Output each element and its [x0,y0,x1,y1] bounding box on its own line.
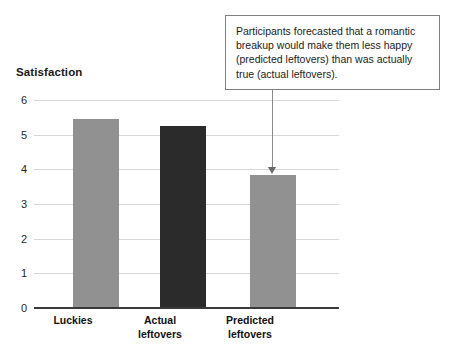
category-label-line: Actual [114,314,206,328]
annotation-arrow-icon [268,167,276,174]
category-label-line: leftovers [114,328,206,342]
category-label-actual-leftovers: Actual leftovers [114,314,206,341]
annotation-callout: Participants forecasted that a romantic … [225,15,440,90]
category-label-predicted-leftovers: Predicted leftovers [204,314,296,341]
x-axis-line [34,307,339,309]
bar-predicted-leftovers [250,175,296,308]
category-label-line: Predicted [204,314,296,328]
bar-actual-leftovers [160,126,206,308]
y-axis-title: Satisfaction [16,66,82,78]
y-tick-label-0: 0 [21,302,27,314]
y-tick-label-3: 3 [21,198,27,210]
category-label-line: leftovers [204,328,296,342]
gridline-6: 6 [34,100,339,101]
y-tick-label-2: 2 [21,233,27,245]
plot-area: 6 5 4 3 2 1 0 [34,100,339,308]
category-label-line: Luckies [27,314,119,328]
y-tick-label-1: 1 [21,267,27,279]
y-tick-label-4: 4 [21,163,27,175]
y-tick-label-6: 6 [21,94,27,106]
y-tick-label-5: 5 [21,129,27,141]
bar-chart-figure: Satisfaction 6 5 4 3 2 1 0 Luckies Actua… [0,0,464,354]
bar-luckies [73,119,119,308]
annotation-leader-line [272,79,273,169]
category-label-luckies: Luckies [27,314,119,328]
